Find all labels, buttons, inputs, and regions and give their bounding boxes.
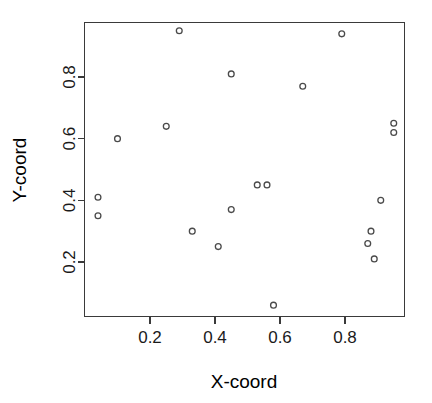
x-axis-title: X-coord	[211, 371, 278, 392]
y-tick-label: 0.4	[60, 189, 79, 213]
y-tick-label: 0.2	[60, 250, 79, 274]
x-tick-label: 0.4	[203, 328, 227, 347]
scatter-plot-figure: 0.20.40.60.8 0.20.40.60.8 X-coord Y-coor…	[0, 0, 432, 403]
x-tick-label: 0.2	[138, 328, 162, 347]
y-tick-label: 0.6	[60, 127, 79, 151]
x-tick-label: 0.8	[333, 328, 357, 347]
y-axis-title: Y-coord	[9, 138, 30, 203]
chart-canvas: 0.20.40.60.8 0.20.40.60.8 X-coord Y-coor…	[0, 0, 432, 403]
x-tick-label: 0.6	[268, 328, 292, 347]
y-tick-label: 0.8	[60, 65, 79, 89]
